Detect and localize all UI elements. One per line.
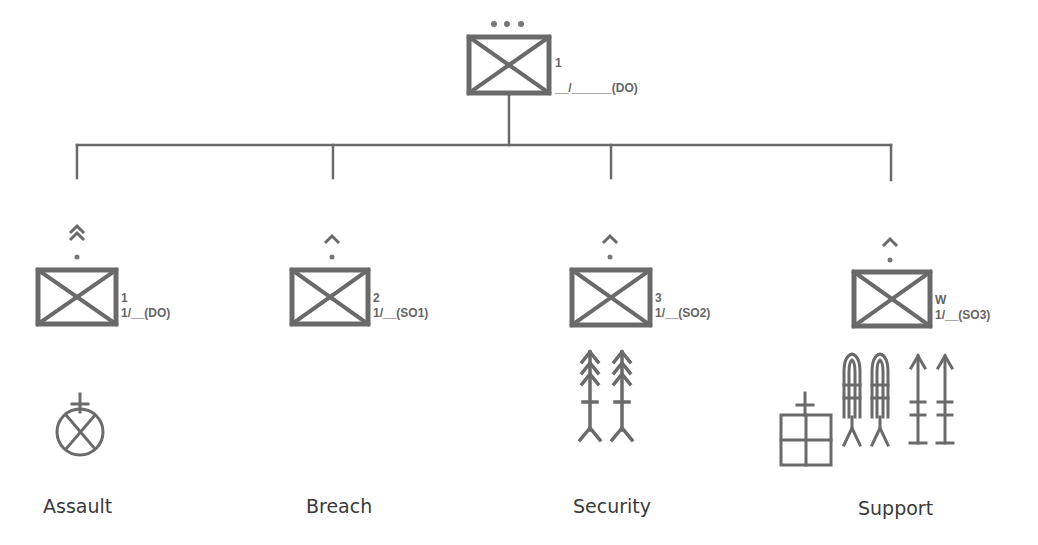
echelon-dot-icon — [330, 255, 335, 260]
double-arrow-icon — [580, 352, 600, 440]
hq-designation: __/______(DO) — [555, 81, 638, 95]
org-chart-diagram — [0, 0, 1038, 545]
rocket-launcher-icon — [844, 354, 860, 445]
rocket-launcher-icon — [872, 354, 888, 445]
connector-lines — [77, 95, 891, 180]
battalion-echelon-dots-icon — [491, 21, 524, 27]
support-designation: 1/__(SO3) — [935, 308, 990, 322]
hq-infantry-symbol[interactable] — [469, 37, 549, 93]
caption-breach: Breach — [306, 495, 372, 517]
caption-assault: Assault — [43, 495, 112, 517]
support-unit-id: W — [935, 293, 946, 307]
breach-designation: 1/__(SO1) — [373, 306, 428, 320]
attack-by-fire-position-icon — [57, 394, 103, 455]
assault-unit-id: 1 — [121, 291, 128, 305]
caption-support: Support — [858, 497, 933, 519]
assault-designation: 1/__(DO) — [121, 306, 170, 320]
hq-unit-id: 1 — [555, 56, 562, 70]
double-chevron-icon — [71, 226, 83, 239]
chevron-icon — [604, 236, 616, 242]
security-designation: 1/__(SO2) — [655, 306, 710, 320]
chevron-icon — [326, 236, 338, 242]
echelon-dot-icon — [888, 258, 893, 263]
security-infantry-symbol[interactable] — [572, 270, 650, 325]
breach-unit-id: 2 — [373, 291, 380, 305]
echelon-dot-icon — [75, 255, 80, 260]
assault-infantry-symbol[interactable] — [38, 270, 116, 324]
breach-infantry-symbol[interactable] — [292, 270, 368, 324]
missile-icon — [910, 356, 926, 443]
double-arrow-icon — [612, 352, 632, 440]
chevron-icon — [884, 239, 896, 245]
missile-icon — [937, 356, 953, 443]
security-unit-id: 3 — [655, 291, 662, 305]
caption-security: Security — [573, 495, 651, 517]
medical-station-icon — [781, 393, 831, 465]
echelon-dot-icon — [608, 255, 613, 260]
support-infantry-symbol[interactable] — [854, 272, 930, 326]
